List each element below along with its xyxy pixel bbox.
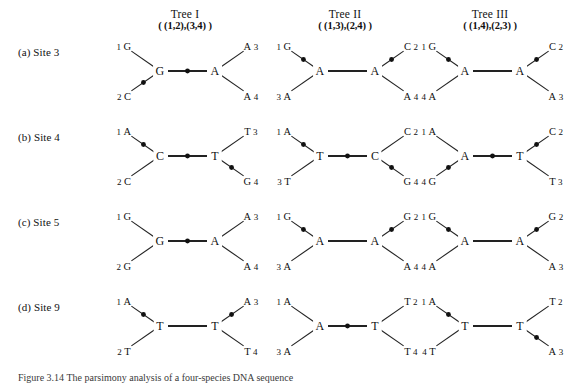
internal-node-left: A xyxy=(313,234,327,249)
substitution-mark-upper-left xyxy=(301,57,306,62)
tip-base: G xyxy=(284,41,292,52)
tip-base: A xyxy=(549,261,557,272)
tip-index: 3 xyxy=(559,347,564,357)
substitution-mark-upper-left xyxy=(141,312,146,317)
tip-index: 1 xyxy=(117,42,122,52)
tip-index: 1 xyxy=(277,212,282,222)
column-header-tree-3: Tree III( (1,4),(2,3) ) xyxy=(410,8,568,32)
internal-node-right: T xyxy=(209,149,222,164)
tip-label-lower-right: A 4 xyxy=(244,261,259,272)
tip-label-lower-left: 4 T xyxy=(422,346,436,357)
tip-base: G xyxy=(124,211,132,222)
column-header-name: Tree I xyxy=(105,8,265,20)
tip-base: C xyxy=(549,126,556,137)
tip-index: 3 xyxy=(254,297,259,307)
tip-index: 1 xyxy=(117,212,122,222)
tip-label-upper-left: 1 A xyxy=(277,296,292,307)
tree-site-c-topology-2: AA1 G3 AG 2A 4 xyxy=(265,210,425,272)
branch-lower-left xyxy=(291,160,314,176)
tip-base: T xyxy=(284,176,291,187)
branch-lower-left xyxy=(436,245,459,261)
tip-base: A xyxy=(244,211,252,222)
branch-lower-right xyxy=(221,330,244,346)
tip-base: G xyxy=(429,41,437,52)
substitution-mark-upper-right xyxy=(534,57,539,62)
tip-index: 2 xyxy=(117,347,122,357)
internal-node-left: G xyxy=(153,234,167,249)
branch-lower-left xyxy=(131,160,154,176)
tree-site-d-topology-1: TT1 A2 TA 3T 4 xyxy=(105,295,265,357)
internal-node-left: A xyxy=(458,149,472,164)
substitution-mark-internal xyxy=(185,239,190,244)
internal-node-right: T xyxy=(209,319,222,334)
column-header-tree-1: Tree I( (1,2),(3,4) ) xyxy=(105,8,265,32)
tip-base: T xyxy=(429,346,436,357)
tip-base: G xyxy=(429,211,437,222)
tip-index: 1 xyxy=(117,297,122,307)
tip-index: 3 xyxy=(254,212,259,222)
tip-index: 1 xyxy=(277,127,282,137)
tip-label-lower-right: A 3 xyxy=(549,91,564,102)
branch-lower-left xyxy=(131,245,154,261)
tip-index: 2 xyxy=(558,42,563,52)
tree-site-d-topology-3: TT1 A4 TT 2A 3 xyxy=(410,295,568,357)
tip-base: A xyxy=(244,296,252,307)
tip-label-lower-left: 3 A xyxy=(277,346,292,357)
tip-label-upper-left: 1 A xyxy=(117,296,132,307)
tip-base: G xyxy=(549,211,557,222)
column-header-partition: ( (1,4),(2,3) ) xyxy=(410,20,568,31)
substitution-mark-upper-left xyxy=(446,57,451,62)
column-header-tree-2: Tree II( (1,3),(2,4) ) xyxy=(265,8,425,32)
tip-label-lower-left: 2 C xyxy=(117,91,131,102)
branch-upper-right xyxy=(381,136,404,152)
tip-index: 4 xyxy=(422,347,427,357)
substitution-mark-upper-right xyxy=(229,312,234,317)
branch-lower-right xyxy=(381,245,404,261)
tip-label-upper-left: 1 G xyxy=(277,211,292,222)
tip-label-upper-left: 1 G xyxy=(117,41,132,52)
branch-upper-right xyxy=(221,221,244,237)
tip-base: A xyxy=(284,126,292,137)
tip-label-lower-left: 4 G xyxy=(422,176,437,187)
tip-index: 4 xyxy=(254,92,259,102)
internal-node-right: A xyxy=(208,234,222,249)
branch-lower-right xyxy=(381,330,404,346)
tip-index: 2 xyxy=(117,92,122,102)
tip-base: T xyxy=(244,346,251,357)
branch-upper-right xyxy=(221,51,244,67)
tip-index: 1 xyxy=(277,297,282,307)
internal-node-left: G xyxy=(153,64,167,79)
tip-index: 3 xyxy=(253,127,258,137)
tip-label-lower-left: 2 G xyxy=(117,261,132,272)
substitution-mark-internal xyxy=(185,154,190,159)
tip-index: 4 xyxy=(254,262,259,272)
row-label-site-c: (c) Site 5 xyxy=(18,216,59,228)
tip-index: 4 xyxy=(253,347,258,357)
tree-site-b-topology-2: TC1 A3 TC 2G 4 xyxy=(265,125,425,187)
tip-base: C xyxy=(124,91,131,102)
tip-base: G xyxy=(124,261,132,272)
branch-upper-left xyxy=(131,51,154,67)
branch-lower-right xyxy=(381,75,404,91)
tip-index: 1 xyxy=(422,127,427,137)
tip-base: T xyxy=(124,346,131,357)
tip-label-lower-left: 4 A xyxy=(422,261,437,272)
tip-label-lower-right: G 4 xyxy=(244,176,259,187)
internal-node-right: C xyxy=(368,149,381,164)
tip-base: A xyxy=(429,261,437,272)
tip-index: 4 xyxy=(422,92,427,102)
tip-base: A xyxy=(244,261,252,272)
branch-upper-right xyxy=(526,306,549,322)
figure-caption: Figure 3.14 The parsimony analysis of a … xyxy=(18,372,538,383)
tip-label-upper-right: A 3 xyxy=(244,41,259,52)
tip-label-upper-left: 1 A xyxy=(422,126,437,137)
tip-index: 3 xyxy=(559,92,564,102)
tree-site-c-topology-3: AA1 G4 AG 2A 3 xyxy=(410,210,568,272)
substitution-mark-internal xyxy=(345,324,350,329)
tip-label-upper-left: 1 G xyxy=(277,41,292,52)
branch-lower-right xyxy=(526,75,549,91)
tip-base: A xyxy=(244,91,252,102)
column-header-partition: ( (1,2),(3,4) ) xyxy=(105,20,265,31)
substitution-mark-lower-left xyxy=(446,165,451,170)
internal-node-left: C xyxy=(153,149,166,164)
